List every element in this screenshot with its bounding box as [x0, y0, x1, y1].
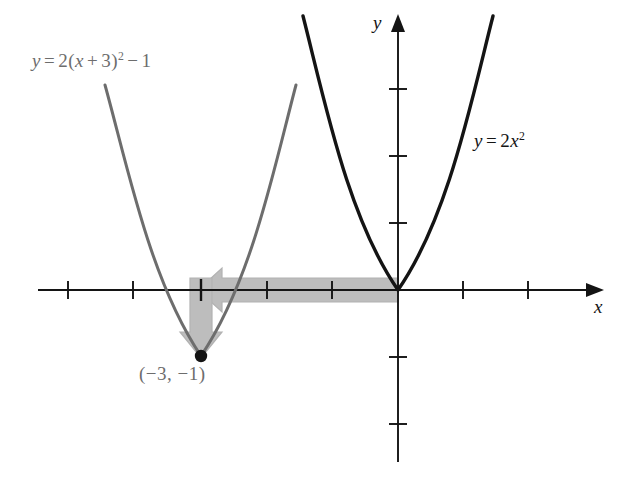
- eq-exponent: 2: [519, 130, 525, 143]
- eq-plus: +: [84, 50, 101, 71]
- graph-figure: y=2(x+3)2−1 y=2x2 (−3, −1) x y: [0, 0, 620, 486]
- x-axis-label: x: [594, 296, 603, 318]
- eq-close-paren: ): [111, 50, 118, 71]
- eq-k: 1: [142, 50, 152, 71]
- eq-variable: x: [510, 130, 519, 151]
- eq-minus: −: [124, 50, 141, 71]
- coordinate-plane-svg: [0, 0, 620, 486]
- eq-coefficient: 2: [58, 50, 68, 71]
- eq-h: 3: [101, 50, 111, 71]
- eq-lhs: y: [474, 130, 483, 151]
- eq-sign: =: [483, 130, 500, 151]
- shifted-parabola-equation-label: y=2(x+3)2−1: [32, 50, 152, 72]
- eq-lhs: y: [32, 50, 41, 71]
- eq-variable: x: [75, 50, 84, 71]
- y-axis: [389, 14, 407, 462]
- vertex-point-dot: [195, 350, 207, 362]
- vertex-coordinate-label: (−3, −1): [139, 363, 206, 385]
- eq-coefficient: 2: [500, 130, 510, 151]
- y-axis-label: y: [373, 12, 382, 34]
- eq-open-paren: (: [68, 50, 75, 71]
- eq-sign: =: [41, 50, 58, 71]
- parent-parabola-equation-label: y=2x2: [474, 130, 525, 152]
